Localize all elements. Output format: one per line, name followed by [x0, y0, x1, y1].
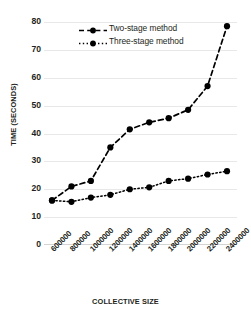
data-point-marker [146, 184, 152, 190]
chart-legend: Two-stage methodThree-stage method [78, 21, 208, 47]
data-point-marker [49, 197, 55, 203]
series-1 [49, 23, 230, 203]
line-chart: TIME (SECONDS) 01020304050607080 6000008… [0, 0, 251, 317]
legend-line-sample-icon [78, 35, 108, 46]
series-line [52, 171, 227, 202]
data-point-marker [166, 115, 172, 121]
data-point-marker [146, 119, 152, 125]
legend-entry[interactable]: Two-stage method [78, 21, 208, 34]
data-point-marker [88, 178, 94, 184]
series-plot [44, 22, 237, 245]
data-point-marker [166, 178, 172, 184]
data-point-marker [88, 195, 94, 201]
series-line [52, 26, 227, 200]
legend-label: Two-stage method [109, 23, 177, 33]
y-axis-tick-label: 60 [15, 73, 41, 82]
data-point-marker [127, 126, 133, 132]
data-point-marker [185, 176, 191, 182]
plot-area [44, 22, 237, 245]
data-point-marker [107, 144, 113, 150]
y-axis-tick-label: 0 [15, 240, 41, 249]
legend-label: Three-stage method [109, 36, 184, 46]
x-axis-tick-labels: 6000008000001000000120000014000001600000… [44, 245, 237, 295]
data-point-marker [204, 171, 210, 177]
data-point-marker [224, 23, 230, 29]
y-axis-tick-label: 20 [15, 184, 41, 193]
x-axis-title: COLLECTIVE SIZE [0, 297, 251, 306]
data-point-marker [68, 183, 74, 189]
y-axis-tick-label: 70 [15, 45, 41, 54]
data-point-marker [68, 199, 74, 205]
data-point-marker [185, 107, 191, 113]
data-point-marker [107, 192, 113, 198]
legend-line-sample-icon [78, 22, 108, 33]
data-point-marker [127, 186, 133, 192]
data-point-marker [224, 168, 230, 174]
y-axis-tick-label: 40 [15, 129, 41, 138]
y-axis-tick-label: 10 [15, 212, 41, 221]
y-axis-tick-label: 30 [15, 156, 41, 165]
y-axis-tick-labels: 01020304050607080 [0, 0, 41, 317]
legend-entry[interactable]: Three-stage method [78, 34, 208, 47]
y-axis-tick-label: 80 [15, 17, 41, 26]
series-2 [49, 168, 230, 205]
y-axis-tick-label: 50 [15, 101, 41, 110]
data-point-marker [204, 83, 210, 89]
